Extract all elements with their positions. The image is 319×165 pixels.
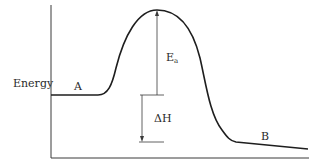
- energy-diagram: Energy A Ea ΔH B: [0, 0, 319, 165]
- activation-energy-symbol: E: [166, 51, 174, 64]
- reaction-curve: [51, 10, 308, 149]
- enthalpy-change-label: ΔH: [154, 113, 172, 124]
- activation-energy-subscript: a: [174, 57, 178, 65]
- activation-energy-label: Ea: [166, 52, 178, 65]
- y-axis-label: Energy: [13, 78, 53, 89]
- enthalpy-change-arrowhead-icon: [140, 136, 144, 142]
- product-label: B: [261, 131, 269, 142]
- activation-energy-arrowhead-icon: [155, 10, 159, 16]
- reactant-label: A: [74, 81, 82, 92]
